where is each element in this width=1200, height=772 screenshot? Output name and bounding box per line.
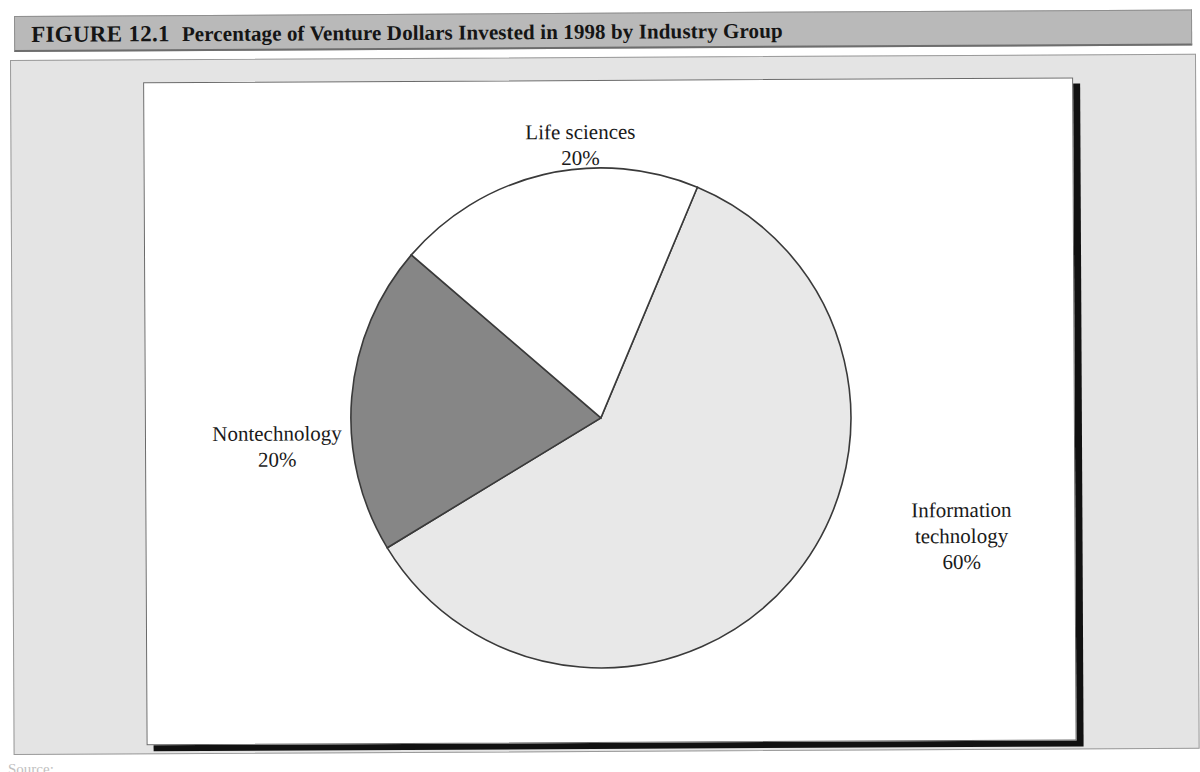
figure-header-bar: FIGURE 12.1Percentage of Venture Dollars… bbox=[14, 9, 1192, 52]
pie-label-nontechnology-name: Nontechnology bbox=[172, 420, 382, 447]
figure-panel: Life sciences 20% Nontechnology 20% Info… bbox=[10, 54, 1200, 755]
pie-label-information-technology-value: 60% bbox=[867, 549, 1057, 576]
chart-area: Life sciences 20% Nontechnology 20% Info… bbox=[143, 77, 1076, 745]
figure-number: FIGURE 12.1 bbox=[31, 21, 170, 47]
pie-label-life-sciences: Life sciences 20% bbox=[480, 118, 680, 171]
pie-label-life-sciences-name: Life sciences bbox=[480, 118, 680, 145]
figure-caption: FIGURE 12.1Percentage of Venture Dollars… bbox=[31, 15, 783, 52]
pie-chart-svg bbox=[144, 78, 1077, 746]
pie-label-nontechnology: Nontechnology 20% bbox=[172, 420, 382, 473]
pie-label-life-sciences-value: 20% bbox=[480, 144, 680, 171]
source-note: Source: bbox=[8, 762, 708, 772]
pie-label-information-technology-name-line1: Information bbox=[866, 497, 1056, 524]
figure-title: Percentage of Venture Dollars Invested i… bbox=[182, 19, 783, 46]
pie-label-nontechnology-value: 20% bbox=[172, 446, 382, 473]
pie-label-information-technology-name-line2: technology bbox=[866, 523, 1056, 550]
pie-label-information-technology: Information technology 60% bbox=[866, 497, 1056, 576]
pie-chart bbox=[144, 78, 1075, 744]
